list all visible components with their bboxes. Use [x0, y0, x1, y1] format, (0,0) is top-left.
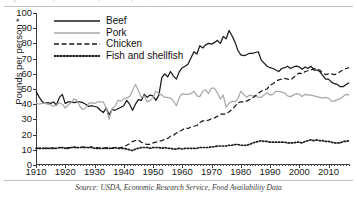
x-tick-label: 1960: [172, 167, 193, 177]
y-tick-label: 90: [21, 23, 32, 33]
legend-label: Fish and shellfish: [106, 50, 183, 62]
top-divider: [4, 6, 353, 7]
legend-swatch-dashed-black-line: [54, 38, 100, 49]
x-tick-label: 1930: [84, 167, 105, 177]
x-tick-label: 1970: [201, 167, 222, 177]
y-tick-label: 40: [21, 99, 32, 109]
y-tick-label: 60: [21, 69, 32, 79]
legend-swatch-solid-gray-line: [54, 27, 100, 38]
y-tick-label: 80: [21, 38, 32, 48]
x-tick-label: 1940: [113, 167, 134, 177]
figure-container: Figure. Per capita availability of beef,…: [0, 0, 357, 198]
legend-label: Beef: [106, 15, 127, 27]
y-tick-label: 20: [21, 130, 32, 140]
bottom-divider: [4, 180, 353, 181]
y-tick-label: 100: [16, 8, 32, 18]
source-note: Source: USDA, Economic Research Service,…: [0, 183, 357, 192]
x-tick-label: 2000: [289, 167, 310, 177]
y-tick-label: 70: [21, 54, 32, 64]
x-tick-label: 1950: [142, 167, 163, 177]
top-caption-text: Figure. Per capita availability of beef,…: [6, 0, 249, 1]
y-tick-label: 10: [21, 145, 32, 155]
legend-label: Pork: [106, 27, 127, 39]
x-tick-label: 2010: [318, 167, 339, 177]
series-line-chicken: [36, 68, 349, 149]
legend-item[interactable]: Beef: [54, 15, 183, 27]
x-minor-tick: [349, 164, 350, 166]
x-tick-label: 1910: [25, 167, 46, 177]
legend-swatch-solid-black-line: [54, 15, 100, 26]
legend-swatch-dotted-black-line: [54, 50, 100, 61]
series-line-fish-and-shellfish: [36, 140, 349, 151]
chart-legend: BeefPorkChickenFish and shellfish: [54, 15, 183, 61]
x-tick-label: 1990: [259, 167, 280, 177]
legend-label: Chicken: [106, 38, 142, 50]
y-tick-label: 30: [21, 114, 32, 124]
x-tick-label: 1920: [55, 167, 76, 177]
legend-item[interactable]: Pork: [54, 27, 183, 39]
legend-item[interactable]: Fish and shellfish: [54, 50, 183, 62]
legend-item[interactable]: Chicken: [54, 38, 183, 50]
series-line-pork: [36, 84, 349, 119]
x-tick-label: 1980: [230, 167, 251, 177]
y-tick-label: 50: [21, 84, 32, 94]
